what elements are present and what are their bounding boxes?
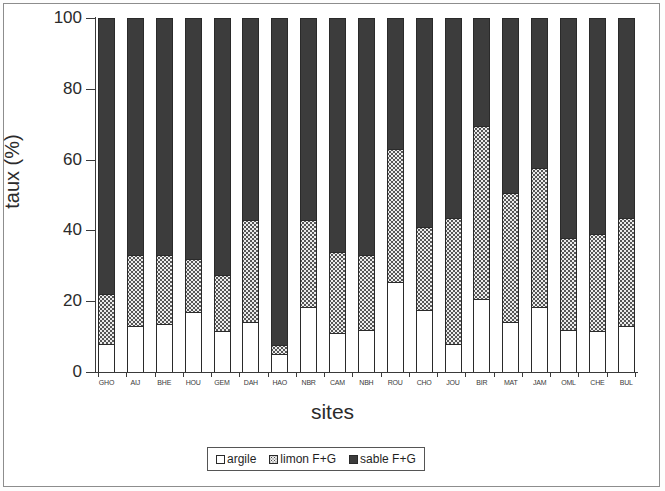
x-axis-tick-mark [522, 372, 523, 377]
x-axis-tick-label: OML [560, 379, 577, 393]
bar-segment-argile [474, 299, 489, 372]
legend-item-label: argile [227, 452, 256, 466]
bar-segment-limon [561, 238, 576, 330]
bar-segment-argile [301, 307, 316, 372]
stacked-bar[interactable] [473, 18, 490, 372]
x-axis-ticks [96, 372, 637, 378]
bar-segment-sable [590, 18, 605, 234]
bar-segment-argile [388, 282, 403, 372]
y-axis-tick-mark [86, 372, 95, 373]
x-axis-tick-mark [635, 372, 636, 377]
stacked-bar[interactable] [618, 18, 635, 372]
bar-segment-argile [272, 354, 287, 372]
x-axis-tick-mark [183, 372, 184, 377]
filled-square-icon [349, 455, 358, 464]
bar-segment-argile [215, 331, 230, 372]
bar-segment-sable [359, 18, 374, 255]
y-axis-title: taux (%) [1, 82, 24, 262]
bar-segment-limon [272, 345, 287, 354]
bar-segment-sable [243, 18, 258, 220]
x-axis-tick-label: CAM [329, 379, 346, 393]
bar-segment-limon [446, 218, 461, 344]
y-axis-tick-label: 80 [36, 80, 82, 97]
stacked-bar[interactable] [502, 18, 519, 372]
stacked-bar[interactable] [531, 18, 548, 372]
figure-container: taux (%) 020406080100 GHOAIJBHEHOUGEMDAH… [0, 0, 665, 491]
stacked-bar[interactable] [127, 18, 144, 372]
bar-group [618, 18, 635, 372]
bar-segment-sable [417, 18, 432, 227]
plot-area [96, 18, 637, 372]
bar-segment-sable [619, 18, 634, 218]
legend-item: limon F+G [269, 452, 336, 466]
bar-segment-limon [330, 252, 345, 333]
x-axis-tick-label: BHE [156, 379, 173, 393]
bar-segment-limon [474, 126, 489, 299]
bar-group [329, 18, 346, 372]
bar-segment-sable [388, 18, 403, 149]
stacked-bar[interactable] [300, 18, 317, 372]
bar-segment-sable [128, 18, 143, 255]
x-axis-tick-label: GEM [214, 379, 231, 393]
bar-segment-argile [532, 307, 547, 372]
stacked-bar[interactable] [416, 18, 433, 372]
x-axis-tick-mark [268, 372, 269, 377]
bar-group [214, 18, 231, 372]
bar-segment-sable [330, 18, 345, 252]
x-axis-tick-label: CHO [416, 379, 433, 393]
x-axis-tick-label: HOU [185, 379, 202, 393]
bar-group [271, 18, 288, 372]
stacked-bar[interactable] [214, 18, 231, 372]
bar-segment-sable [301, 18, 316, 220]
stacked-bar[interactable] [560, 18, 577, 372]
y-axis-tick-label: 60 [36, 151, 82, 168]
x-axis-tick-label: JAM [531, 379, 548, 393]
legend-item: sable F+G [349, 452, 416, 466]
x-axis-tick-mark [381, 372, 382, 377]
x-axis-tick-mark [155, 372, 156, 377]
stacked-bar[interactable] [358, 18, 375, 372]
stacked-bar[interactable] [185, 18, 202, 372]
bar-segment-argile [417, 310, 432, 372]
bar-group [589, 18, 606, 372]
stacked-bar[interactable] [589, 18, 606, 372]
bar-segment-limon [215, 275, 230, 332]
y-axis-tick-mark [86, 18, 95, 19]
stacked-bar[interactable] [387, 18, 404, 372]
y-axis-tick-label: 20 [36, 292, 82, 309]
stacked-bar[interactable] [445, 18, 462, 372]
bar-group [185, 18, 202, 372]
stacked-bar[interactable] [98, 18, 115, 372]
stacked-bar[interactable] [156, 18, 173, 372]
bar-segment-sable [446, 18, 461, 218]
bar-segment-limon [619, 218, 634, 326]
x-axis-tick-label: ROU [387, 379, 404, 393]
bar-segment-limon [301, 220, 316, 307]
stacked-bar[interactable] [271, 18, 288, 372]
x-axis-tick-mark [437, 372, 438, 377]
x-axis-tick-label: CHE [589, 379, 606, 393]
x-axis-tick-mark [98, 372, 99, 377]
bar-segment-limon [532, 168, 547, 306]
bar-group [387, 18, 404, 372]
bar-group [156, 18, 173, 372]
y-axis-tick-mark [86, 160, 95, 161]
x-axis-tick-mark [409, 372, 410, 377]
stacked-bar[interactable] [242, 18, 259, 372]
bar-segment-argile [99, 344, 114, 372]
bar-segment-argile [561, 330, 576, 372]
stacked-bar[interactable] [329, 18, 346, 372]
x-axis-tick-mark [494, 372, 495, 377]
x-axis-tick-label: BIR [473, 379, 490, 393]
bar-segment-argile [157, 324, 172, 372]
bar-group [531, 18, 548, 372]
bar-segment-sable [215, 18, 230, 275]
y-axis-tick-mark [86, 230, 95, 231]
white-square-icon [216, 455, 225, 464]
x-axis-tick-mark [296, 372, 297, 377]
bar-segment-argile [186, 312, 201, 372]
bar-segment-argile [503, 322, 518, 372]
bar-segment-argile [619, 326, 634, 372]
x-axis-tick-mark [239, 372, 240, 377]
x-axis-tick-label: NBR [300, 379, 317, 393]
